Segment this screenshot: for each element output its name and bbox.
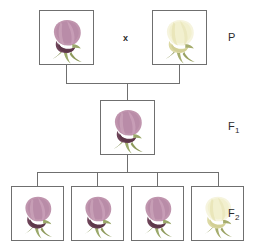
connector-p-to-f1-drop [127,83,128,100]
connector-f2-drop-1 [37,172,38,186]
pedigree-diagram: x P [0,0,265,252]
purple-flower [101,101,154,154]
purple-flower [12,187,63,240]
purple-flower [72,187,123,240]
purple-flower [40,11,93,64]
white-flower [153,11,206,64]
f2-offspring-purple-box-1[interactable] [11,186,64,241]
p-parent-purple-box[interactable] [39,10,94,65]
connector-f2-drop-4 [218,172,219,186]
generation-label-f2-text: F [228,207,235,219]
cross-symbol: x [123,33,128,43]
f1-offspring-purple-box[interactable] [100,100,155,155]
connector-p-horizontal-bus [66,83,180,84]
generation-label-f1-sub: 1 [235,126,240,135]
p-parent-white-box[interactable] [152,10,207,65]
purple-flower [132,187,183,240]
generation-label-f2-sub: 2 [235,213,240,222]
connector-f2-horizontal-bus [37,172,218,173]
generation-label-f2: F2 [228,207,240,222]
generation-label-f1-text: F [228,120,235,132]
connector-p-right-drop [179,65,180,83]
generation-label-p-text: P [228,31,236,43]
generation-label-p: P [228,31,236,43]
connector-f2-drop-3 [157,172,158,186]
f2-offspring-purple-box-2[interactable] [71,186,124,241]
generation-label-f1: F1 [228,120,240,135]
connector-p-left-drop [66,65,67,83]
connector-f2-drop-2 [97,172,98,186]
f2-offspring-purple-box-3[interactable] [131,186,184,241]
connector-f1-drop [127,155,128,172]
